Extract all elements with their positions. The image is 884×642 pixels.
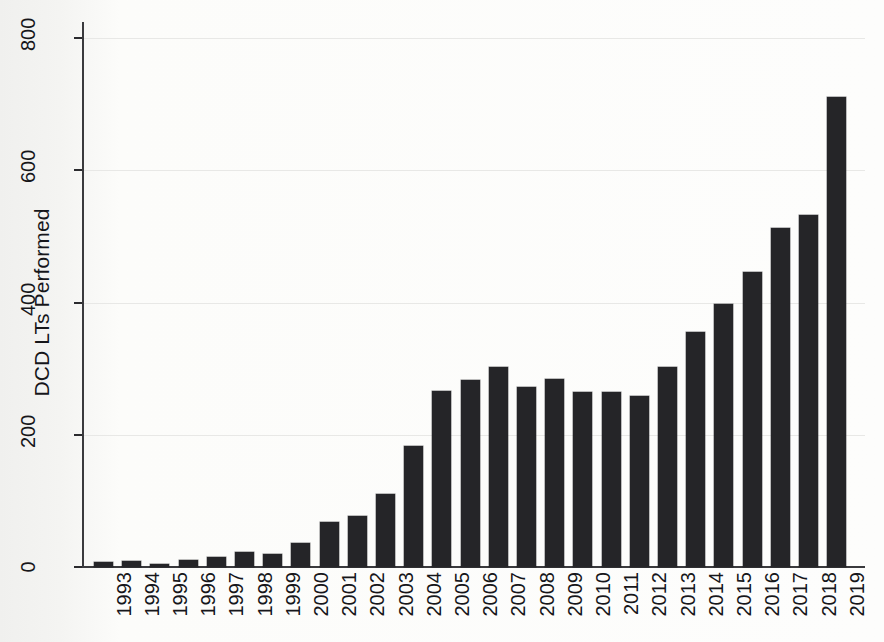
- bar: [743, 272, 762, 567]
- x-tick-label: 2010: [592, 572, 614, 638]
- x-tick-label: 2018: [818, 572, 840, 638]
- bar: [686, 332, 705, 567]
- x-tick-label: 1996: [197, 572, 219, 638]
- bar: [799, 215, 818, 567]
- x-tick-label: 2016: [761, 572, 783, 638]
- x-tick-label: 2001: [338, 572, 360, 638]
- x-tick-label: 2017: [789, 572, 811, 638]
- x-tick-label: 1994: [141, 572, 163, 638]
- x-tick-label: 1998: [254, 572, 276, 638]
- bar: [545, 379, 564, 567]
- bar: [94, 562, 113, 567]
- x-tick-label: 2009: [564, 572, 586, 638]
- bar-series: [84, 22, 865, 567]
- x-tick-label: 2007: [507, 572, 529, 638]
- x-tick-label: 2014: [705, 572, 727, 638]
- chart-figure: DCD LTs Performed 0200400600800 19931994…: [0, 0, 884, 642]
- bar: [320, 522, 339, 567]
- y-tick-label: 400: [15, 290, 75, 316]
- x-tick-label: 2000: [310, 572, 332, 638]
- x-tick-label: 2005: [451, 572, 473, 638]
- x-tick-label: 1999: [282, 572, 304, 638]
- bar: [263, 554, 282, 567]
- bar: [771, 228, 790, 567]
- bar: [461, 380, 480, 567]
- plot-area: [84, 22, 865, 567]
- x-tick-label: 2013: [677, 572, 699, 638]
- bar: [122, 561, 141, 567]
- y-tick-label: 0: [15, 554, 75, 580]
- x-tick-label: 2008: [536, 572, 558, 638]
- bar: [827, 97, 846, 567]
- bar: [376, 494, 395, 567]
- bar: [517, 387, 536, 567]
- x-tick-label: 2012: [648, 572, 670, 638]
- bar: [235, 552, 254, 567]
- y-tick-label: 600: [15, 157, 75, 183]
- bar: [291, 543, 310, 567]
- x-tick-label: 1997: [225, 572, 247, 638]
- bar: [602, 392, 621, 567]
- bar: [489, 367, 508, 567]
- x-tick-label: 2003: [395, 572, 417, 638]
- x-tick-label: 2006: [479, 572, 501, 638]
- y-tick-label: 800: [15, 25, 75, 51]
- x-tick-label: 2004: [423, 572, 445, 638]
- x-tick-label: 2015: [733, 572, 755, 638]
- bar: [573, 392, 592, 567]
- bar: [432, 391, 451, 567]
- y-tick-label: 200: [15, 422, 75, 448]
- bar: [207, 557, 226, 567]
- x-tick-label: 2011: [620, 572, 642, 638]
- x-axis-ticks: 1993199419951996199719981999200020012002…: [84, 570, 865, 640]
- bar: [630, 396, 649, 567]
- bar: [714, 304, 733, 567]
- bar: [404, 446, 423, 567]
- x-tick-label: 2019: [846, 572, 868, 638]
- bar: [179, 560, 198, 567]
- bar: [150, 564, 169, 567]
- bar: [348, 516, 367, 567]
- x-tick-label: 1995: [169, 572, 191, 638]
- x-tick-label: 2002: [366, 572, 388, 638]
- x-tick-label: 1993: [113, 572, 135, 638]
- bar: [658, 367, 677, 567]
